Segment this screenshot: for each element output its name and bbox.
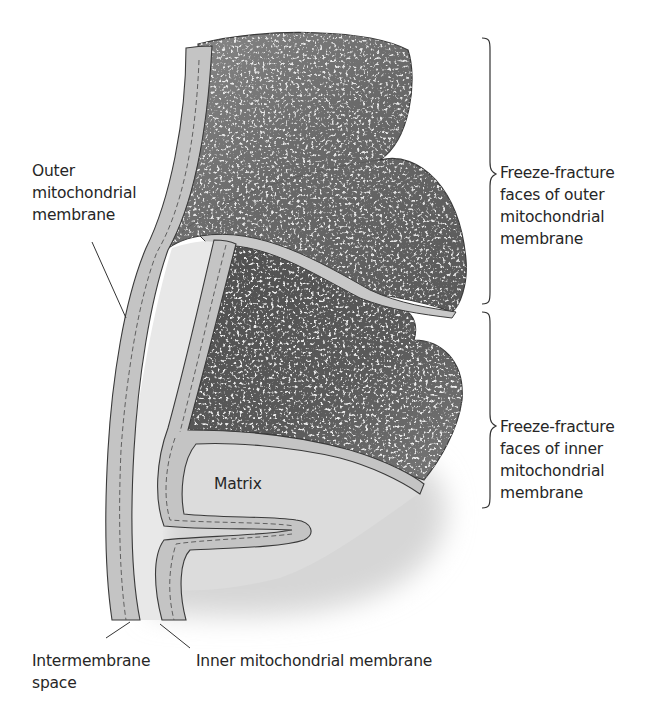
label-line: membrane (500, 228, 614, 250)
outer-membrane-label: Outer mitochondrial membrane (32, 160, 136, 226)
label-line: Freeze-fracture (500, 162, 614, 184)
label-line: Inner mitochondrial membrane (196, 650, 432, 672)
freeze-fracture-outer-label: Freeze-fracture faces of outer mitochond… (500, 162, 614, 250)
bracket-outer (482, 38, 496, 304)
label-line: space (32, 672, 150, 694)
label-line: faces of inner (500, 438, 614, 460)
label-line: Outer (32, 160, 136, 182)
leader-intermembrane (106, 622, 130, 638)
label-line: mitochondrial (32, 182, 136, 204)
leader-inner-membrane (160, 624, 190, 648)
leader-outer-membrane (92, 242, 126, 318)
label-line: faces of outer (500, 184, 614, 206)
matrix-label: Matrix (214, 473, 262, 495)
mitochondrion-diagram (0, 0, 668, 707)
freeze-fracture-inner-label: Freeze-fracture faces of inner mitochond… (500, 416, 614, 504)
inner-membrane-label: Inner mitochondrial membrane (196, 650, 432, 672)
label-line: Intermembrane (32, 650, 150, 672)
bracket-inner (482, 312, 496, 508)
label-line: membrane (32, 204, 136, 226)
label-line: mitochondrial (500, 206, 614, 228)
label-line: Freeze-fracture (500, 416, 614, 438)
intermembrane-space-label: Intermembrane space (32, 650, 150, 694)
label-line: Matrix (214, 473, 262, 495)
label-line: membrane (500, 482, 614, 504)
label-line: mitochondrial (500, 460, 614, 482)
